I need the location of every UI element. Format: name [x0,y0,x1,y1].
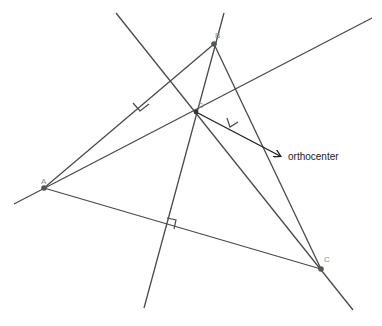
orthocenter-label: orthocenter [288,151,339,162]
label-c: C [324,255,330,264]
orthocenter-diagram: A B C D orthocenter [0,0,382,326]
altitude-from-b [144,13,224,308]
point-a [41,185,47,191]
label-b: B [215,31,220,40]
label-d: D [198,101,204,110]
point-b [211,41,217,47]
right-angle-marker-bc [227,118,238,127]
point-d [194,110,199,115]
altitude-from-a [14,18,372,204]
orthocenter-arrow [196,112,280,156]
side-ab [44,44,214,188]
label-a: A [41,177,47,186]
side-ac [44,188,321,269]
point-c [318,266,324,272]
